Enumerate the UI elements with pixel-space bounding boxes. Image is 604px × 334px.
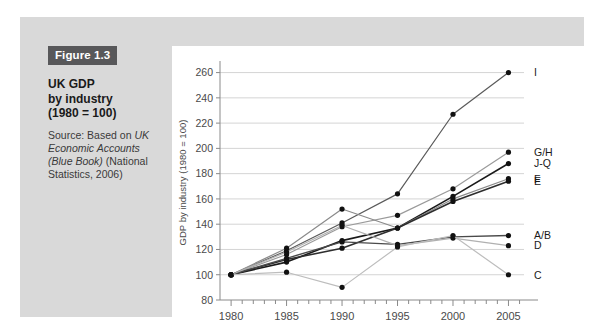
data-point [395, 225, 400, 230]
figure-caption-block: Figure 1.3 UK GDP by industry (1980 = 10… [48, 45, 160, 181]
figure-number-badge: Figure 1.3 [48, 46, 117, 65]
data-point [506, 150, 511, 155]
x-tick-label: 2000 [441, 310, 465, 322]
figure-source-prefix: Source: Based on [48, 129, 134, 141]
y-tick-label: 160 [195, 193, 213, 205]
line-chart: 8010012014016018020022024026019801985199… [172, 46, 594, 323]
data-point [339, 223, 344, 228]
figure-panel: Figure 1.3 UK GDP by industry (1980 = 10… [20, 17, 584, 317]
y-tick-label: 120 [195, 243, 213, 255]
y-tick-label: 180 [195, 167, 213, 179]
data-point [450, 186, 455, 191]
data-point [228, 272, 233, 277]
figure-source: Source: Based on UK Economic Accounts (B… [48, 129, 160, 181]
series-label-j-q: J-Q [534, 157, 551, 169]
data-point [506, 179, 511, 184]
figure-title-line-2: by industry [48, 92, 160, 107]
data-point [450, 233, 455, 238]
data-point [284, 270, 289, 275]
y-tick-label: 220 [195, 117, 213, 129]
data-point [339, 206, 344, 211]
x-tick-label: 1980 [219, 310, 243, 322]
data-point [450, 199, 455, 204]
series-line [231, 181, 508, 274]
x-tick-label: 1995 [385, 310, 409, 322]
data-point [506, 70, 511, 75]
plot-card: 8010012014016018020022024026019801985199… [172, 46, 594, 323]
y-tick-label: 260 [195, 66, 213, 78]
y-tick-label: 140 [195, 218, 213, 230]
series-label-g-h: G/H [534, 146, 553, 158]
series-label-e: E [534, 175, 541, 187]
figure-title-line-3: (1980 = 100) [48, 106, 160, 121]
x-tick-label: 2005 [496, 310, 520, 322]
data-point [339, 239, 344, 244]
series-label-i: I [534, 66, 537, 78]
x-tick-label: 1985 [274, 310, 298, 322]
data-point [395, 244, 400, 249]
series-line [231, 179, 508, 275]
data-point [506, 233, 511, 238]
data-point [339, 246, 344, 251]
y-axis-title: GDP by industry (1980 = 100) [177, 120, 188, 246]
series-label-d: D [534, 239, 542, 251]
y-tick-label: 100 [195, 269, 213, 281]
data-point [506, 243, 511, 248]
data-point [506, 272, 511, 277]
data-point [339, 285, 344, 290]
data-point [284, 256, 289, 261]
x-tick-label: 1990 [330, 310, 354, 322]
figure-title: UK GDP by industry (1980 = 100) [48, 77, 160, 121]
y-tick-label: 200 [195, 142, 213, 154]
y-tick-label: 80 [201, 294, 213, 306]
data-point [450, 112, 455, 117]
data-point [284, 249, 289, 254]
data-point [506, 161, 511, 166]
figure-title-line-1: UK GDP [48, 77, 160, 92]
y-tick-label: 240 [195, 92, 213, 104]
data-point [395, 191, 400, 196]
data-point [395, 213, 400, 218]
series-label-c: C [534, 269, 542, 281]
figure-root: Figure 1.3 UK GDP by industry (1980 = 10… [0, 0, 604, 334]
